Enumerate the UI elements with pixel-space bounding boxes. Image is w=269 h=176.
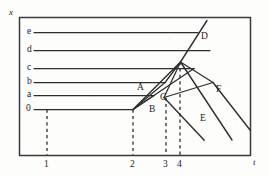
y-tick-label-e: e	[27, 27, 31, 37]
point-label-C: C	[160, 93, 166, 103]
figure-container: x t e d c b a 0 1 2 3 4 A B C D E F	[0, 0, 269, 176]
C-to-F-line	[164, 83, 213, 98]
point-label-D: D	[201, 32, 208, 42]
point-label-A: A	[137, 83, 144, 93]
point-label-E: E	[200, 114, 206, 124]
x-tick-label-4: 4	[177, 160, 182, 170]
apex-drop-to-E	[181, 62, 233, 140]
y-tick-label-0: 0	[26, 104, 31, 114]
y-tick-label-d: d	[27, 45, 32, 55]
diagram-canvas	[0, 0, 269, 176]
point-label-F: F	[216, 85, 221, 95]
x-tick-label-1: 1	[44, 160, 49, 170]
y-axis-label: x	[9, 8, 13, 17]
apex-to-F	[181, 62, 214, 83]
x-tick-label-2: 2	[130, 160, 135, 170]
x-axis-label: t	[253, 158, 256, 167]
x-tick-label-3: 3	[163, 160, 168, 170]
y-tick-label-c: c	[27, 63, 31, 73]
y-tick-label-b: b	[27, 77, 32, 87]
y-tick-label-a: a	[27, 90, 31, 100]
C-to-E-line	[164, 98, 204, 141]
point-label-B: B	[149, 105, 155, 115]
